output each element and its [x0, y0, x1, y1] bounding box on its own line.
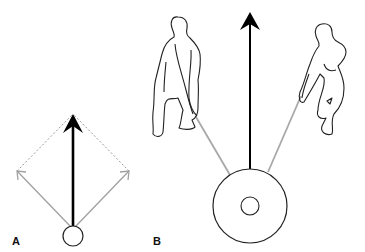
object-circle: [63, 226, 83, 246]
person-silhouette-icon: [153, 17, 201, 137]
panel-label-b: B: [153, 235, 161, 247]
weight-plate-icon: [213, 169, 287, 243]
component-arrow-icon: [17, 171, 71, 227]
parallelogram-edge-right: [73, 114, 129, 171]
resultant-arrow-icon: [240, 12, 260, 169]
panel-a: A: [12, 114, 129, 247]
parallelogram-edge-left: [17, 114, 73, 171]
panel-b: B: [153, 12, 346, 247]
component-arrow-icon: [75, 171, 129, 227]
panel-label-a: A: [12, 235, 20, 247]
resultant-arrow-icon: [63, 114, 83, 226]
diagram-canvas: A B: [0, 0, 365, 252]
rope-left: [196, 117, 230, 175]
rope-right: [268, 96, 301, 172]
person-silhouette-icon: [299, 24, 346, 135]
